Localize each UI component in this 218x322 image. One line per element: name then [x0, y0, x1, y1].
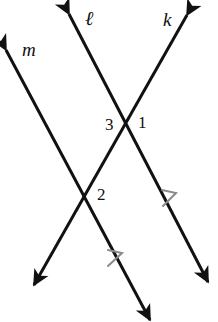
line-l: [69, 14, 208, 282]
geometry-diagram: m ℓ k 1 3 2: [0, 0, 218, 322]
angle-label-2: 2: [97, 186, 106, 203]
line-label-m: m: [22, 40, 36, 59]
angle-label-3: 3: [105, 116, 114, 133]
line-m: [6, 50, 150, 320]
angle-label-1: 1: [138, 114, 147, 131]
line-label-l: ℓ: [85, 8, 93, 28]
line-label-k: k: [163, 10, 171, 29]
